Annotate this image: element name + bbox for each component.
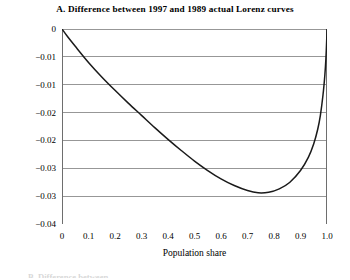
x-tick-label-1: 0.1 bbox=[74, 232, 104, 241]
x-tick-label-4: 0.4 bbox=[153, 232, 183, 241]
y-tick-label-6: −0.03 bbox=[2, 192, 56, 201]
y-tick-label-0: 0 bbox=[2, 25, 56, 34]
figure-panel-a: A. Difference between 1997 and 1989 actu… bbox=[0, 0, 350, 280]
x-tick-label-0: 0 bbox=[47, 232, 77, 241]
x-tick-label-7: 0.7 bbox=[233, 232, 263, 241]
y-tick-label-7: −0.04 bbox=[2, 220, 56, 229]
next-panel-caption-fragment: B. Difference between bbox=[28, 272, 328, 278]
y-tick-label-1: −0.01 bbox=[2, 53, 56, 62]
x-axis-title: Population share bbox=[62, 248, 327, 259]
x-tick-label-3: 0.3 bbox=[127, 232, 157, 241]
gridlines-horizontal bbox=[62, 29, 327, 224]
axis-spines bbox=[63, 29, 327, 224]
x-tick-label-9: 0.9 bbox=[286, 232, 316, 241]
x-tick-label-8: 0.8 bbox=[259, 232, 289, 241]
x-tick-label-6: 0.6 bbox=[206, 232, 236, 241]
y-tick-label-5: −0.03 bbox=[2, 164, 56, 173]
plot-svg bbox=[62, 29, 327, 224]
y-tick-label-4: −0.02 bbox=[2, 136, 56, 145]
x-axis-tick-labels: 0 0.1 0.2 0.3 0.4 0.5 0.6 0.7 0.8 0.9 1.… bbox=[0, 232, 350, 244]
x-tick-label-10: 1.0 bbox=[312, 232, 342, 241]
plot-area bbox=[62, 29, 327, 224]
x-tick-label-2: 0.2 bbox=[100, 232, 130, 241]
x-tick-label-5: 0.5 bbox=[180, 232, 210, 241]
y-tick-label-3: −0.02 bbox=[2, 109, 56, 118]
y-tick-label-2: −0.01 bbox=[2, 81, 56, 90]
